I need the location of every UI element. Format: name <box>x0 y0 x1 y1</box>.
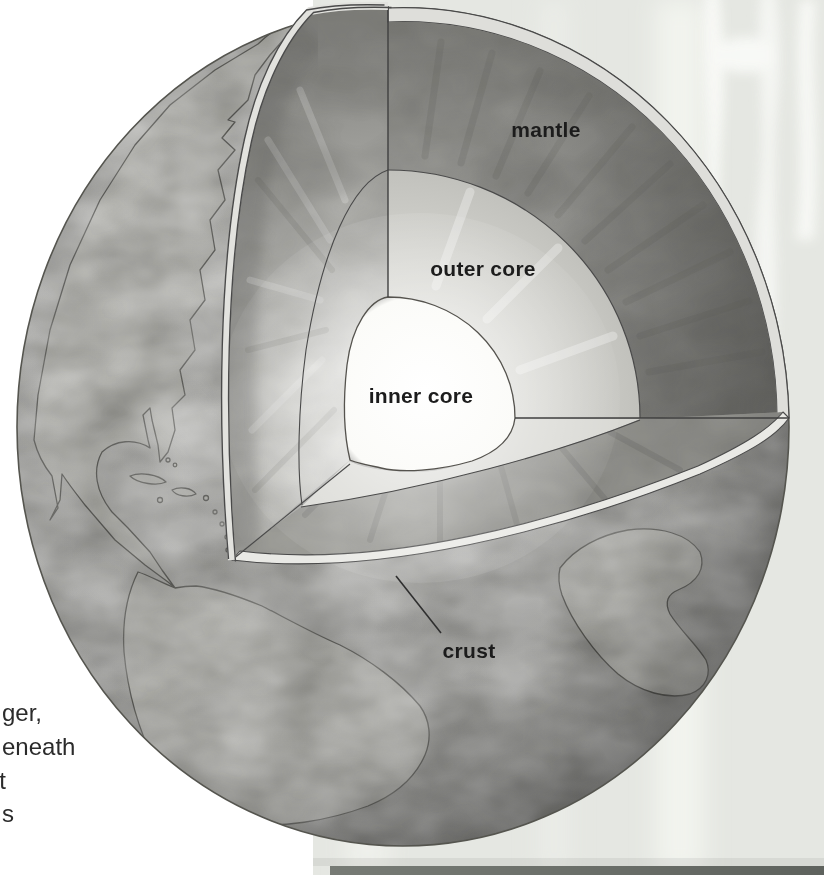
earth-cutaway-illustration <box>0 0 824 875</box>
caption-fragment: eneath <box>2 735 75 759</box>
label-inner-core: inner core <box>369 384 474 408</box>
caption-fragment: s <box>2 802 14 826</box>
panel-bottom-strip <box>330 866 824 875</box>
caption-fragment: t <box>0 769 6 793</box>
figure-canvas: mantle outer core inner core crust ger, … <box>0 0 824 875</box>
label-mantle: mantle <box>511 118 581 142</box>
label-outer-core: outer core <box>430 257 536 281</box>
caption-fragment: ger, <box>2 701 42 725</box>
label-crust: crust <box>443 639 496 663</box>
